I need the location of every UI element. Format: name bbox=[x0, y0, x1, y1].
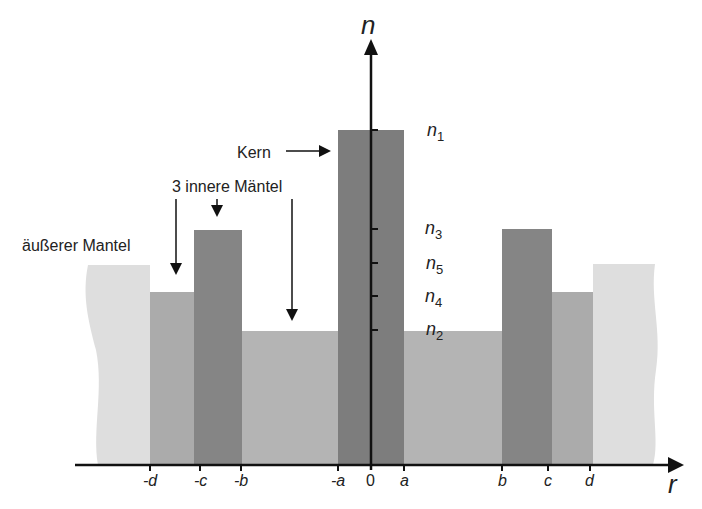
y-axis-label: n bbox=[361, 10, 375, 40]
ring-n2-right bbox=[404, 331, 502, 465]
ring-n4-left bbox=[150, 292, 194, 465]
svg-text:c: c bbox=[544, 472, 552, 489]
svg-text:n4: n4 bbox=[425, 286, 442, 310]
x-tick-labels: -d -c -b -a 0 a b c d bbox=[143, 472, 595, 489]
inner-cladding-label: 3 innere Mäntel bbox=[172, 178, 282, 195]
core-label: Kern bbox=[237, 144, 271, 161]
refractive-index-profile-diagram: n r -d -c -b -a 0 a b c d n1 n3 n5 n4 n2… bbox=[0, 0, 702, 509]
ring-n2-left bbox=[242, 331, 338, 465]
y-axis-arrow-icon bbox=[364, 39, 378, 55]
svg-text:a: a bbox=[400, 472, 409, 489]
svg-text:0: 0 bbox=[366, 472, 375, 489]
svg-text:b: b bbox=[498, 472, 507, 489]
svg-text:-a: -a bbox=[331, 472, 345, 489]
x-axis-label: r bbox=[668, 469, 678, 499]
outer-cladding-label: äußerer Mantel bbox=[22, 237, 131, 254]
svg-text:n5: n5 bbox=[426, 253, 443, 277]
outer-cladding-right bbox=[593, 264, 658, 465]
ring-n3-right bbox=[502, 229, 552, 465]
svg-text:d: d bbox=[585, 472, 595, 489]
svg-text:n1: n1 bbox=[427, 120, 444, 144]
ring-n3-left bbox=[194, 230, 242, 465]
svg-text:n3: n3 bbox=[425, 218, 442, 242]
y-tick-labels: n1 n3 n5 n4 n2 bbox=[425, 120, 444, 343]
ring-n4-right bbox=[552, 292, 593, 465]
outer-cladding-left bbox=[86, 265, 150, 465]
svg-text:-d: -d bbox=[143, 472, 158, 489]
svg-text:-c: -c bbox=[194, 472, 207, 489]
svg-text:-b: -b bbox=[234, 472, 248, 489]
